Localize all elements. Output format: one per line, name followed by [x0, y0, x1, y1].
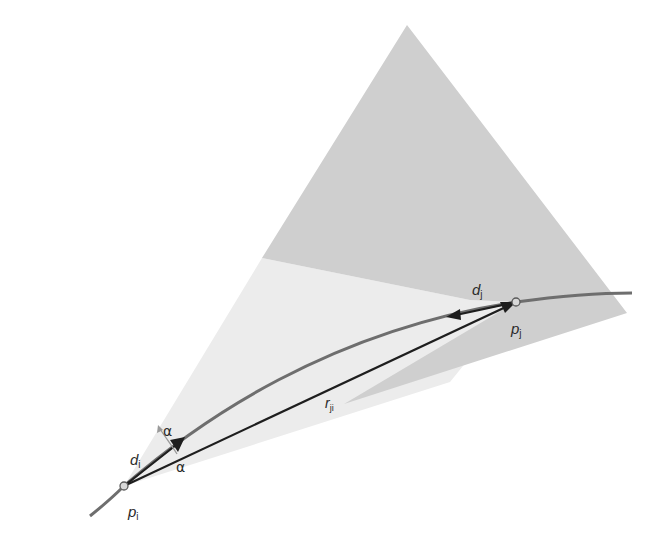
label-pi: pi: [127, 503, 139, 522]
label-di: di: [130, 451, 141, 470]
label-alpha-upper: α: [163, 423, 172, 439]
point-pi: [120, 482, 128, 490]
label-alpha-lower: α: [176, 459, 185, 475]
point-pj: [512, 298, 520, 306]
diagram-canvas: pi pj di dj rji α α: [0, 0, 664, 543]
